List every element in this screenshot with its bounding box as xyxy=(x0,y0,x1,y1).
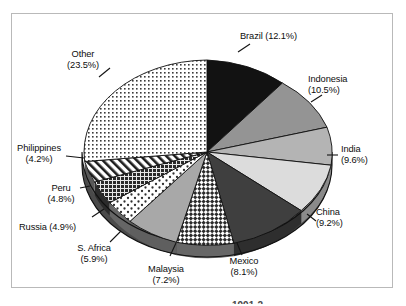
pie-label-brazil: Brazil (12.1%) xyxy=(240,31,297,42)
pie-label-peru: Peru (4.8%) xyxy=(38,183,84,205)
pie-label-indonesia: Indonesia (10.5%) xyxy=(308,74,347,96)
leader-line-s-africa xyxy=(110,231,121,242)
pie-label-s-africa: S. Africa (5.9%) xyxy=(62,243,126,265)
pie-label-philippines: Philippines (4.2%) xyxy=(10,143,68,165)
pie-label-malaysia: Malaysia (7.2%) xyxy=(134,264,198,286)
pie-slice-other[interactable] xyxy=(84,60,207,162)
pie-label-russia: Russia (4.9%) xyxy=(19,222,76,233)
pie-label-india: India (9.6%) xyxy=(341,144,368,166)
pie-label-other: Other (23.5%) xyxy=(56,49,110,71)
cut-off-caption-fragment: 1991-2 xyxy=(232,300,382,304)
pie-label-china: China (9.2%) xyxy=(316,207,343,229)
pie-chart-figure: Brazil (12.1%) Indonesia (10.5%) India (… xyxy=(0,0,406,306)
leader-line-brazil xyxy=(238,44,250,52)
pie-label-mexico: Mexico (8.1%) xyxy=(216,256,272,278)
leader-line-philippines xyxy=(66,156,84,158)
